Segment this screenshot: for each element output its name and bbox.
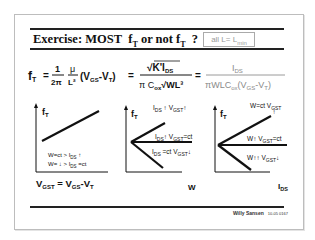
svg-text:W= ↓ > IDS =ct: W= ↓ > IDS =ct: [48, 161, 87, 169]
y-axis-arrow-icon: [213, 105, 217, 110]
vgs-vt-term: (VGS-VT): [80, 71, 116, 83]
x-axis-label: VGST = VGS-VT: [36, 178, 94, 190]
frac4-numerator: IDS: [232, 63, 243, 74]
graph-ids: fT W=ct VGST↑ W↑ VGST=ct W↑↑ VGST↓ IDS: [213, 102, 288, 192]
svg-text:μ: μ: [70, 64, 75, 74]
svg-text:1: 1: [55, 64, 60, 74]
svg-text:W=ct VGST↑: W=ct VGST↑: [250, 102, 281, 115]
svg-text:=: =: [128, 70, 134, 81]
formula-lhs: fT: [28, 69, 37, 83]
svg-text:2π: 2π: [51, 78, 62, 87]
svg-text:fT: fT: [131, 109, 138, 120]
ft-line: [42, 111, 99, 141]
ft-formula: fT = 1 2π μ L² (VGS-VT) = √K'IDS π Cox√W…: [28, 61, 201, 91]
bottom-rule: [30, 206, 284, 208]
svg-text:L²: L²: [68, 78, 76, 87]
svg-text:IDS =ct VGST↓: IDS =ct VGST↓: [152, 148, 191, 157]
frac4-denominator: πWLCox(VGS-VT): [205, 80, 271, 91]
y-axis-arrow-icon: [34, 103, 38, 108]
footer: Willy Sansen10-05 0167: [233, 210, 288, 216]
svg-text:IDS: IDS: [278, 182, 288, 192]
svg-text:IDS ↑ VGST↑: IDS ↑ VGST↑: [153, 104, 187, 113]
svg-text:IDS↑ VGST=ct: IDS↑ VGST=ct: [155, 133, 192, 142]
svg-text:W↑ VGST=ct: W↑ VGST=ct: [247, 135, 282, 144]
svg-text:W: W: [188, 183, 196, 192]
ft-formula-grey: IDS πWLCox(VGS-VT): [205, 63, 285, 91]
svg-text:W↑↑ VGST↓: W↑↑ VGST↓: [247, 154, 279, 163]
frac3-numerator: √K'IDS: [147, 62, 173, 74]
svg-text:fT: fT: [42, 107, 49, 118]
frac3-denominator: π Cox√WL³: [139, 80, 183, 91]
y-axis-arrow-icon: [124, 105, 128, 110]
svg-text:fT: fT: [220, 109, 227, 120]
svg-text:=: =: [43, 70, 49, 81]
slide-graphics: fT = 1 2π μ L² (VGS-VT) = √K'IDS π Cox√W…: [0, 0, 315, 240]
graph-vgst: fT W=ct > IDS ↑ W= ↓ > IDS =ct VGST = VG…: [34, 103, 108, 190]
author: Willy Sansen: [233, 210, 264, 216]
svg-text:=: =: [195, 70, 201, 81]
graph-w: fT IDS ↑ VGST↑ IDS↑ VGST=ct IDS =ct VGST…: [124, 104, 196, 192]
svg-text:W=ct > IDS ↑: W=ct > IDS ↑: [48, 152, 81, 160]
slide-code: 10-05 0167: [268, 211, 288, 216]
